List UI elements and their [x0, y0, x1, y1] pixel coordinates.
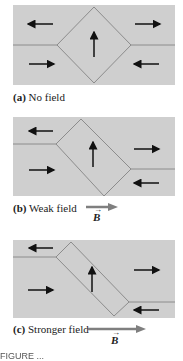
field-arrow-icon-b [86, 203, 118, 211]
panel-c-diagram [13, 240, 175, 318]
panel-c-letter: (c) [13, 323, 25, 335]
panel-c-label: Stronger field [28, 323, 89, 335]
panel-b-diagram [13, 117, 175, 196]
figure-caption-cutoff: FIGURE ... [0, 351, 44, 361]
panel-a-caption: (a) No field [13, 91, 65, 103]
panel-c-caption: (c) Stronger field [13, 323, 89, 335]
panel-b-caption: (b) Weak field [13, 202, 77, 214]
panel-a-letter: (a) [13, 91, 26, 103]
field-symbol-b: → B [93, 211, 100, 223]
panel-b-label: Weak field [29, 202, 77, 214]
panel-a-label: No field [29, 91, 65, 103]
field-symbol-c: → B [111, 334, 118, 346]
panel-b-letter: (b) [13, 202, 26, 214]
panel-a-diagram [13, 5, 175, 85]
